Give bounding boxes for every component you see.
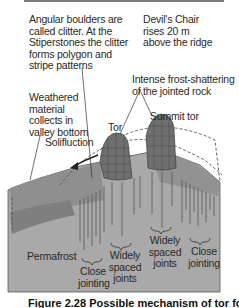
widely-spaced-joints-label-1: Widely spaced joints xyxy=(107,250,143,285)
clitter-note: Angular boulders are called clitter. At … xyxy=(29,14,128,72)
weathered-material-label: Weathered material collects in valley bo… xyxy=(29,92,88,138)
close-jointing-label-1: Close jointing xyxy=(78,266,108,289)
close-jointing-label-2: Close jointing xyxy=(186,246,222,269)
tor-label: Tor xyxy=(108,122,122,134)
devils-chair-note: Devil's Chair rises 20 m above the ridge xyxy=(143,14,212,49)
summit-tor-label: Summit tor xyxy=(150,111,199,123)
widely-spaced-joints-label-2: Widely spaced joints xyxy=(147,235,183,270)
solifluction-label: Solifluction xyxy=(45,137,93,149)
frost-shattering-label: Intense frost-shattering of the jointed … xyxy=(132,74,235,97)
permafrost-label: Permafrost xyxy=(27,251,76,263)
figure-caption: Figure 2.28 Possible mechanism of tor fo… xyxy=(28,297,239,308)
